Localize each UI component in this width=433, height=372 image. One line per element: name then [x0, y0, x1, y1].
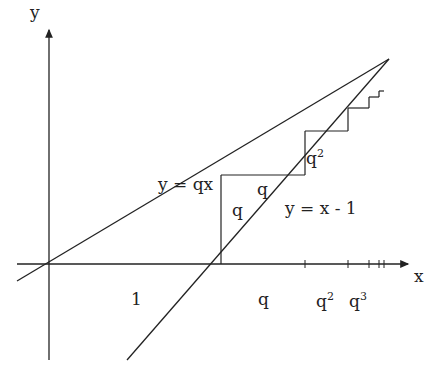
label-y-equals-x-minus-1: y = x - 1 [284, 198, 357, 218]
staircase [221, 91, 384, 264]
label-q-vertical: q [232, 200, 243, 220]
label-q2-x-axis: q2 [316, 290, 334, 311]
x-axis-label: x [414, 266, 424, 286]
label-q-x-axis: q [258, 289, 269, 309]
label-q2-vertical: q2 [306, 147, 324, 168]
label-q-horizontal: q [257, 179, 268, 199]
label-y-equals-qx: y = qx [157, 174, 214, 194]
diagram-canvas: y x y = qx y = x - 1 q q q2 1 q q2 q3 [0, 0, 433, 372]
line-y-equals-qx [17, 59, 389, 281]
label-q3-x-axis: q3 [349, 290, 367, 311]
y-axis-label: y [29, 2, 40, 22]
label-one: 1 [131, 289, 142, 309]
